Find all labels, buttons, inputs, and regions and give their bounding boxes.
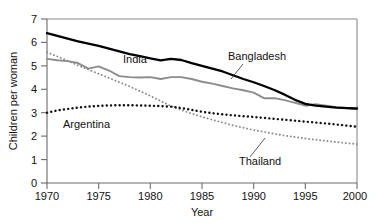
- x-tick-label-1990: 1990: [241, 190, 265, 202]
- y-tick-label-6: 6: [31, 36, 37, 48]
- y-tick-label-2: 2: [31, 130, 37, 142]
- series-label-india: India: [123, 53, 148, 65]
- y-ticks: [41, 19, 47, 183]
- y-tick-label-7: 7: [31, 13, 37, 25]
- series-label-bangladesh: Bangladesh: [228, 50, 286, 62]
- y-tick-label-3: 3: [31, 107, 37, 119]
- x-tick-label-1970: 1970: [35, 190, 59, 202]
- x-axis-title: Year: [191, 206, 214, 218]
- line-chart: 0 1 2 3 4 5 6 7 1970 1975 1980 1985 1990…: [0, 0, 380, 223]
- y-tick-label-0: 0: [31, 177, 37, 189]
- y-tick-labels: 0 1 2 3 4 5 6 7: [31, 13, 37, 189]
- series-label-argentina: Argentina: [63, 118, 111, 130]
- y-axis-title: Children per woman: [7, 52, 19, 150]
- x-tick-label-1995: 1995: [293, 190, 317, 202]
- figure-container: 0 1 2 3 4 5 6 7 1970 1975 1980 1985 1990…: [0, 0, 380, 223]
- x-tick-label-1975: 1975: [86, 190, 110, 202]
- x-tick-labels: 1970 1975 1980 1985 1990 1995 2000: [35, 190, 367, 202]
- series-line-india: [47, 33, 357, 108]
- x-ticks: [47, 183, 357, 189]
- x-tick-label-1980: 1980: [138, 190, 162, 202]
- y-tick-label-1: 1: [31, 154, 37, 166]
- x-tick-label-2000: 2000: [343, 190, 367, 202]
- series-label-thailand: Thailand: [239, 155, 281, 167]
- x-tick-label-1985: 1985: [190, 190, 214, 202]
- y-tick-label-5: 5: [31, 60, 37, 72]
- y-tick-label-4: 4: [31, 83, 37, 95]
